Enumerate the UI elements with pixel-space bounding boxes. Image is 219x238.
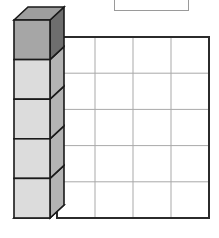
- grid-cell[interactable]: [133, 37, 171, 73]
- block-stack: [14, 7, 64, 218]
- answer-box-group: [115, 0, 189, 11]
- block-cube[interactable]: [14, 178, 50, 218]
- grid-cell[interactable]: [95, 109, 133, 145]
- grid-cell[interactable]: [171, 73, 209, 109]
- grid-cell[interactable]: [95, 73, 133, 109]
- grid-cell[interactable]: [95, 182, 133, 218]
- grid-cell[interactable]: [171, 37, 209, 73]
- grid-cell[interactable]: [171, 146, 209, 182]
- grid-cell[interactable]: [95, 37, 133, 73]
- diagram-stage: [0, 0, 219, 238]
- block-cube-shaded[interactable]: [14, 20, 50, 60]
- empty-answer-box[interactable]: [115, 0, 189, 11]
- grid-cell[interactable]: [133, 182, 171, 218]
- grid-cell[interactable]: [133, 146, 171, 182]
- cell-grid: [57, 37, 209, 218]
- block-cube[interactable]: [14, 99, 50, 139]
- grid-cell[interactable]: [171, 109, 209, 145]
- grid-cell[interactable]: [133, 73, 171, 109]
- grid-cell[interactable]: [171, 182, 209, 218]
- isometric-block-diagram: [0, 0, 219, 238]
- block-cube[interactable]: [14, 139, 50, 179]
- grid-cell[interactable]: [95, 146, 133, 182]
- grid-cell[interactable]: [133, 109, 171, 145]
- block-cube[interactable]: [14, 60, 50, 100]
